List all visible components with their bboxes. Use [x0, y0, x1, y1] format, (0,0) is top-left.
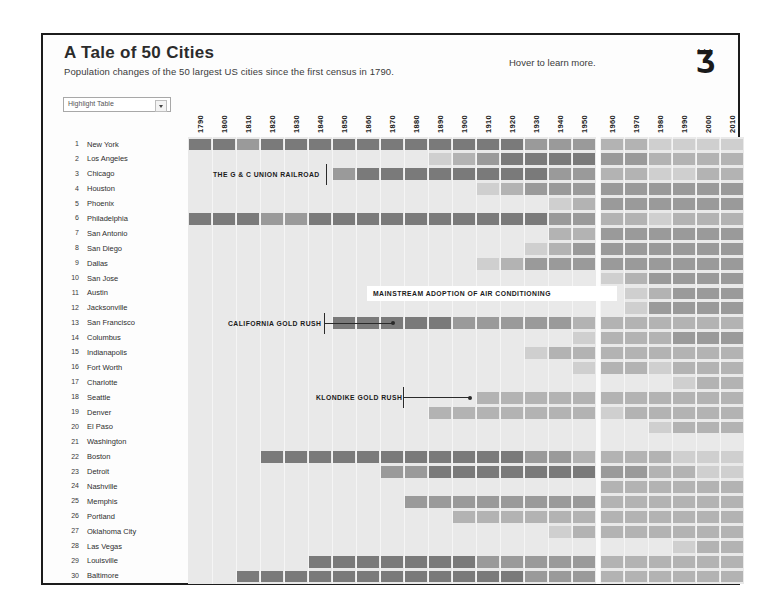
heatmap-cell[interactable]	[625, 481, 647, 493]
heatmap-cell[interactable]	[625, 556, 647, 568]
heatmap-cell[interactable]	[453, 511, 475, 523]
heatmap-cell[interactable]	[237, 213, 259, 225]
heatmap-cell[interactable]	[721, 526, 743, 538]
heatmap-cell[interactable]	[697, 571, 719, 583]
heatmap-cell[interactable]	[525, 511, 547, 523]
heatmap-cell[interactable]	[429, 571, 451, 583]
heatmap-cell[interactable]	[721, 377, 743, 389]
heatmap-cell[interactable]	[649, 302, 671, 314]
heatmap-cell[interactable]	[649, 288, 671, 300]
heatmap-cell[interactable]	[573, 392, 595, 404]
heatmap-cell[interactable]	[549, 556, 571, 568]
heatmap-cell[interactable]	[625, 153, 647, 165]
heatmap-cell[interactable]	[649, 451, 671, 463]
heatmap-cell[interactable]	[721, 407, 743, 419]
heatmap-cell[interactable]	[625, 511, 647, 523]
heatmap-cell[interactable]	[601, 526, 623, 538]
heatmap-cell[interactable]	[405, 168, 427, 180]
heatmap-cell[interactable]	[721, 362, 743, 374]
heatmap-cell[interactable]	[549, 228, 571, 240]
heatmap-cell[interactable]	[357, 571, 379, 583]
heatmap-cell[interactable]	[357, 168, 379, 180]
heatmap-cell[interactable]	[501, 139, 523, 151]
heatmap-cell[interactable]	[697, 183, 719, 195]
heatmap-cell[interactable]	[261, 451, 283, 463]
heatmap-cell[interactable]	[625, 451, 647, 463]
heatmap-cell[interactable]	[453, 571, 475, 583]
heatmap-cell[interactable]	[549, 243, 571, 255]
heatmap-cell[interactable]	[357, 451, 379, 463]
heatmap-cell[interactable]	[673, 481, 695, 493]
heatmap-cell[interactable]	[673, 496, 695, 508]
heatmap-cell[interactable]	[501, 168, 523, 180]
heatmap-cell[interactable]	[381, 168, 403, 180]
heatmap-cell[interactable]	[721, 243, 743, 255]
city-row[interactable]: 25Memphis	[43, 494, 188, 509]
heatmap-cell[interactable]	[501, 183, 523, 195]
heatmap-cell[interactable]	[573, 451, 595, 463]
heatmap-cell[interactable]	[285, 451, 307, 463]
heatmap-cell[interactable]	[601, 153, 623, 165]
heatmap-cell[interactable]	[697, 213, 719, 225]
heatmap-cell[interactable]	[429, 317, 451, 329]
heatmap-cell[interactable]	[573, 139, 595, 151]
heatmap-cell[interactable]	[697, 496, 719, 508]
city-row[interactable]: 22Boston	[43, 450, 188, 465]
heatmap-cell[interactable]	[649, 198, 671, 210]
heatmap-cell[interactable]	[429, 407, 451, 419]
heatmap-cell[interactable]	[649, 332, 671, 344]
city-row[interactable]: 8San Diego	[43, 241, 188, 256]
heatmap-cell[interactable]	[601, 139, 623, 151]
heatmap-cell[interactable]	[601, 168, 623, 180]
heatmap-cell[interactable]	[573, 258, 595, 270]
heatmap-cell[interactable]	[501, 451, 523, 463]
city-row[interactable]: 23Detroit	[43, 465, 188, 480]
heatmap-cell[interactable]	[673, 347, 695, 359]
city-row[interactable]: 14Columbus	[43, 331, 188, 346]
heatmap-cell[interactable]	[429, 153, 451, 165]
heatmap-cell[interactable]	[649, 496, 671, 508]
heatmap-cell[interactable]	[309, 213, 331, 225]
city-row[interactable]: 1New York	[43, 137, 188, 152]
heatmap-cell[interactable]	[697, 422, 719, 434]
city-row[interactable]: 2Los Angeles	[43, 152, 188, 167]
heatmap-cell[interactable]	[549, 198, 571, 210]
heatmap-cell[interactable]	[501, 511, 523, 523]
heatmap-cell[interactable]	[601, 556, 623, 568]
city-row[interactable]: 4Houston	[43, 182, 188, 197]
heatmap-cell[interactable]	[573, 556, 595, 568]
heatmap-cell[interactable]	[697, 392, 719, 404]
heatmap-cell[interactable]	[477, 466, 499, 478]
heatmap-cell[interactable]	[697, 332, 719, 344]
heatmap-cell[interactable]	[285, 213, 307, 225]
heatmap-cell[interactable]	[673, 153, 695, 165]
heatmap-cell[interactable]	[573, 243, 595, 255]
heatmap-cell[interactable]	[601, 183, 623, 195]
heatmap-cell[interactable]	[601, 213, 623, 225]
heatmap-cell[interactable]	[501, 258, 523, 270]
heatmap-cell[interactable]	[549, 213, 571, 225]
heatmap-cell[interactable]	[477, 168, 499, 180]
heatmap-cell[interactable]	[721, 451, 743, 463]
heatmap-cell[interactable]	[721, 153, 743, 165]
heatmap-cell[interactable]	[673, 243, 695, 255]
heatmap-cell[interactable]	[649, 466, 671, 478]
heatmap-cell[interactable]	[673, 228, 695, 240]
heatmap-cell[interactable]	[477, 183, 499, 195]
heatmap-cell[interactable]	[625, 407, 647, 419]
heatmap-cell[interactable]	[477, 556, 499, 568]
heatmap-cell[interactable]	[673, 422, 695, 434]
city-row[interactable]: 29Louisville	[43, 554, 188, 569]
city-row[interactable]: 24Nashville	[43, 479, 188, 494]
city-row[interactable]: 7San Antonio	[43, 226, 188, 241]
heatmap-cell[interactable]	[525, 407, 547, 419]
heatmap-cell[interactable]	[573, 496, 595, 508]
heatmap-cell[interactable]	[697, 302, 719, 314]
heatmap-cell[interactable]	[697, 466, 719, 478]
heatmap-cell[interactable]	[573, 317, 595, 329]
heatmap-cell[interactable]	[573, 153, 595, 165]
heatmap-cell[interactable]	[405, 496, 427, 508]
heatmap-cell[interactable]	[549, 168, 571, 180]
heatmap-cell[interactable]	[721, 422, 743, 434]
heatmap-cell[interactable]	[673, 392, 695, 404]
